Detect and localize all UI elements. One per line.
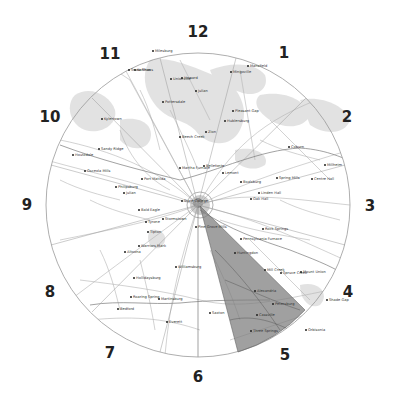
clock-label-9: 9 [22, 198, 32, 213]
town-label: Altoona [124, 251, 141, 255]
town-label: Julian [123, 192, 136, 196]
major-highways [60, 145, 350, 357]
town-label: Beech Creek [179, 136, 205, 140]
town-label: Martinsburg [158, 298, 183, 302]
clock-label-8: 8 [45, 285, 55, 300]
town-label: Lemont [222, 172, 239, 176]
town-label: Hublersburg [224, 120, 249, 124]
town-label: Oak Hall [250, 198, 268, 202]
town-label: Boalsburg [240, 181, 261, 185]
town-label: Roaring Spring [130, 296, 160, 300]
town-label: Zion [205, 131, 216, 135]
clock-label-1: 1 [279, 46, 289, 61]
town-label: Cassville [256, 314, 275, 318]
town-label: Milesburg [152, 50, 172, 54]
town-label: Pottersdale [162, 101, 185, 105]
town-label: Spring Mills [276, 177, 300, 181]
town-label: Philipsburg [115, 186, 138, 190]
town-label: Martha Furnace [179, 167, 210, 171]
town-label: Centre Hall [311, 178, 334, 182]
town-label: Bald Eagle [138, 209, 160, 213]
town-label: Shade Gap [326, 299, 349, 303]
town-label: Pennsylvania Furnace [240, 238, 282, 242]
clock-label-7: 7 [105, 346, 115, 361]
town-label: Millheim [324, 164, 342, 168]
clock-label-10: 10 [40, 110, 61, 125]
town-label: Williamsburg [175, 266, 201, 270]
town-label: Houtzdale [72, 154, 93, 158]
town-label: Pine Grove Mills [195, 226, 227, 230]
town-label: Julian [195, 90, 208, 94]
town-label: Osceola Mills [84, 170, 110, 174]
town-label: State College [181, 200, 208, 204]
town-label: Mount Union [300, 271, 326, 275]
town-label: Rock Springs [262, 228, 288, 232]
town-label: Karthaus [134, 69, 153, 73]
town-label: Mill Creek [264, 269, 285, 273]
town-label: Huntingdon [234, 252, 258, 256]
town-label: Orbisonia [305, 329, 325, 333]
clock-label-2: 2 [342, 110, 352, 125]
town-label: Mingoville [230, 71, 251, 75]
town-label: Stormstown [162, 218, 187, 222]
town-label: Port Matilda [141, 178, 165, 182]
town-label: Coburn [288, 146, 304, 150]
town-label: Alexandria [254, 290, 276, 294]
clock-label-6: 6 [193, 370, 203, 385]
urban-area [187, 192, 213, 218]
town-label: Hollidaysburg [133, 277, 161, 281]
clock-label-12: 12 [188, 25, 209, 40]
clock-label-5: 5 [280, 348, 290, 363]
town-label: Kylertown [101, 118, 122, 122]
town-label: Tipton [147, 231, 161, 235]
town-label: Linden Hall [258, 192, 281, 196]
town-label: Everett [166, 321, 182, 325]
clock-label-11: 11 [100, 47, 121, 62]
town-label: Bedford [117, 308, 134, 312]
town-label: Sandy Ridge [98, 148, 124, 152]
town-label: Tyrone [145, 221, 160, 225]
town-label: Mansfield [247, 65, 267, 69]
town-label: Three Springs [250, 330, 278, 334]
town-label: Petersburg [272, 303, 294, 307]
town-label: Howard [181, 77, 198, 81]
town-label: Saxton [209, 312, 225, 316]
town-label: Pleasant Gap [232, 110, 259, 114]
clock-label-3: 3 [365, 199, 375, 214]
town-label: Warriors Mark [138, 245, 166, 249]
